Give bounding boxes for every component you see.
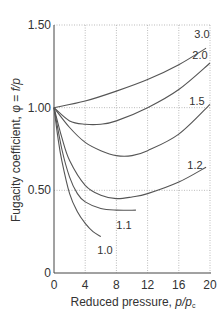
y-tick-label: 1.00 (28, 101, 52, 115)
curve-labels: 3.02.01.51.21.11.0 (97, 28, 209, 256)
fugacity-chart: 00.501.001.50 048121620 3.02.01.51.21.11… (0, 0, 217, 316)
curve-tr-2-0 (54, 63, 210, 125)
x-tick-labels: 048121620 (51, 278, 217, 292)
curve-label: 2.0 (192, 49, 207, 61)
x-tick-label: 0 (51, 278, 58, 292)
curve-tr-1-5 (54, 104, 210, 156)
x-tick-label: 8 (113, 278, 120, 292)
curve-label: 1.5 (189, 95, 204, 107)
curve-tr-3-0 (54, 48, 206, 108)
curve-label: 1.1 (116, 219, 131, 231)
curve-label: 1.2 (187, 159, 202, 171)
x-axis-title: Reduced pressure, p/pc (71, 295, 196, 309)
y-tick-label: 0.50 (28, 183, 52, 197)
x-tick-label: 16 (172, 278, 186, 292)
curve-label: 3.0 (194, 28, 209, 40)
axes (54, 25, 211, 273)
y-axis-title: Fugacity coefficient, φ = f/p (9, 78, 23, 222)
data-curves (54, 48, 210, 236)
x-tick-label: 4 (82, 278, 89, 292)
y-tick-label: 1.50 (28, 18, 52, 32)
y-tick-labels: 00.501.001.50 (28, 18, 52, 280)
curve-label: 1.0 (97, 244, 112, 256)
x-tick-label: 12 (141, 278, 155, 292)
x-tick-label: 20 (203, 278, 217, 292)
curve-tr-1-0 (54, 108, 101, 237)
grid-lines (54, 25, 210, 273)
curve-tr-1-2 (54, 108, 206, 199)
